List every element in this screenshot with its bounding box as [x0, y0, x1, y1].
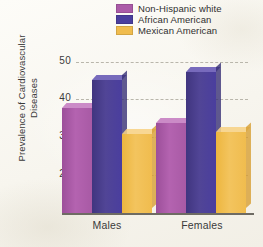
bar-females-african-american	[186, 72, 216, 213]
bar-front-face	[216, 132, 246, 213]
bar-front-face	[156, 123, 186, 213]
bar-males-african-american	[92, 80, 122, 213]
gridline-50	[76, 62, 248, 63]
chart-page: Non-Hispanic white African American Mexi…	[0, 0, 263, 247]
bar-females-non-hispanic-white	[156, 123, 186, 213]
bar-side-face	[246, 122, 251, 208]
x-category-females: Females	[170, 219, 234, 231]
bar-males-mexican-american	[122, 134, 152, 213]
y-axis-label-line2: Diseases	[28, 78, 39, 118]
plot-area: Prevalence of Cardiovascular Diseases 50…	[0, 0, 263, 247]
bar-front-face	[122, 134, 152, 213]
bar-front-face	[92, 80, 122, 213]
bar-front-face	[62, 108, 92, 213]
x-category-males: Males	[77, 219, 137, 231]
x-axis-line	[62, 213, 254, 215]
y-tick-40: 40	[49, 92, 71, 103]
y-axis-label: Prevalence of Cardiovascular Diseases	[16, 33, 40, 163]
bar-males-non-hispanic-white	[62, 108, 92, 213]
bar-females-mexican-american	[216, 132, 246, 213]
bar-front-face	[186, 72, 216, 213]
y-tick-50: 50	[49, 55, 71, 66]
y-axis-label-line1: Prevalence of Cardiovascular	[16, 35, 27, 162]
